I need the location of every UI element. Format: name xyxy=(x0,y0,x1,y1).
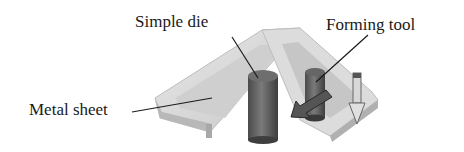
simple-die-cylinder xyxy=(248,70,278,144)
label-metal-sheet: Metal sheet xyxy=(29,101,108,118)
label-forming-tool: Forming tool xyxy=(326,16,415,33)
label-simple-die: Simple die xyxy=(135,13,208,30)
